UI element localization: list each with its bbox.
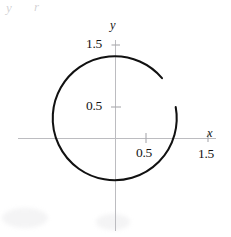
x-tick-label-0-5: 0.5 [136,146,152,160]
plot-canvas [0,0,231,237]
polar-circle-figure: y r 1.5 0.5 0.5 1.5 y x [0,0,231,237]
x-tick-label-1-5: 1.5 [198,147,214,161]
y-axis-label: y [110,19,116,32]
x-axis-label: x [207,127,213,140]
y-tick-label-0-5: 0.5 [86,99,102,113]
circle-arc-curve [53,56,177,180]
y-tick-label-1-5: 1.5 [86,37,102,51]
